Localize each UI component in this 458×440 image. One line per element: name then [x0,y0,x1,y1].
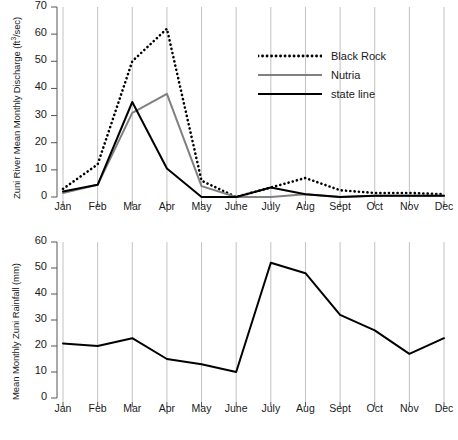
legend-label: Black Rock [331,50,386,62]
series-line-nutria [63,94,444,197]
legend-swatch-state-line [258,88,322,100]
chart-panel-discharge: Zuni River Mean Monthly Discharge (ft3/s… [0,0,450,228]
x-tick-label-dec: Dec [424,402,458,414]
legend-item-state-line[interactable]: state line [258,84,386,103]
series-line-black-rock [63,29,444,197]
legend-item-black-rock[interactable]: Black Rock [258,46,386,65]
legend-swatch-black-rock [258,50,322,62]
legend-item-nutria[interactable]: Nutria [258,65,386,84]
x-tick-label-dec: Dec [424,200,458,212]
series-line-state-line [63,102,444,197]
chart-panel-rainfall: Mean Monthly Zuni Rainfall (mm) 01020304… [0,228,450,440]
legend-label: state line [331,88,375,100]
legend-swatch-nutria [258,69,322,81]
plot-area-discharge [0,0,450,228]
series-line-zuni-rainfall [63,263,444,372]
legend-label: Nutria [331,69,360,81]
chart-legend: Black RockNutriastate line [258,46,386,103]
